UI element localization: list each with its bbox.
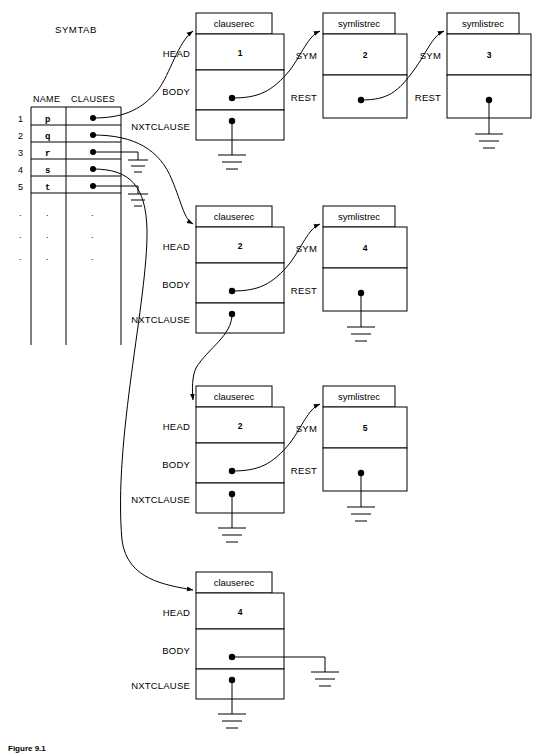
- clauserec-1-nxt-cell: [196, 110, 284, 140]
- link-symtab-row4-to-clauserec4: [93, 169, 193, 590]
- clauserec-4-head-label: HEAD: [163, 607, 190, 618]
- clauserec-4: clauserec HEAD BODY NXTCLAUSE 4: [131, 572, 339, 728]
- clauserec-3-nxt-cell: [196, 483, 284, 513]
- clauserec-4-body-cell: [196, 629, 284, 669]
- symlistrec-4-type-label: symlistrec: [338, 391, 380, 402]
- symtab-ellipsis-name: .: [46, 252, 49, 262]
- symtab-cell-name: r: [45, 149, 50, 159]
- symlistrec-4: symlistrec SYM REST 5: [291, 386, 407, 521]
- symtab-col-clauses: CLAUSES: [71, 94, 115, 104]
- clauserec-4-head-value: 4: [238, 607, 243, 617]
- clauserec-2-body-label: BODY: [162, 279, 190, 290]
- clauserec-1-body-cell: [196, 70, 284, 110]
- symtab-ellipsis-clauses: .: [91, 208, 94, 218]
- symtab-row-index: 1: [18, 114, 23, 124]
- symtab-row-index: 5: [18, 182, 23, 192]
- symtab-ellipsis-clauses: .: [91, 230, 94, 240]
- symlistrec-3-type-label: symlistrec: [338, 211, 380, 222]
- symtab-row-index: 2: [18, 131, 23, 141]
- clauserec-4-body-label: BODY: [162, 645, 190, 656]
- symtab-row-index: 3: [18, 148, 23, 158]
- clauserec-1-nxtclause-label: NXTCLAUSE: [131, 121, 190, 132]
- symlistrec-4-rest-cell: [323, 448, 407, 491]
- symlistrec-3: symlistrec SYM REST 4: [291, 206, 407, 341]
- clauserec-3-head-label: HEAD: [163, 421, 190, 432]
- symtab-ellipsis-index: .: [19, 252, 22, 262]
- clauserec-1-type-label: clauserec: [214, 18, 255, 29]
- clauserec-2-nxt-cell: [196, 303, 284, 333]
- symtab-cell-name: t: [45, 183, 50, 193]
- clauserec-2-nxtclause-label: NXTCLAUSE: [131, 314, 190, 325]
- symtab-ellipsis-name: .: [46, 208, 49, 218]
- symtab-ellipsis-clauses: .: [91, 252, 94, 262]
- clauserec-4-type-label: clauserec: [214, 577, 255, 588]
- symtab-cell-name: q: [45, 132, 50, 142]
- clauserec-4-nxt-cell: [196, 669, 284, 699]
- symtab-title: SYMTAB: [55, 24, 97, 35]
- link-symtab-row2-to-clauserec2: [93, 135, 193, 224]
- symlistrec-1-rest-cell: [323, 75, 407, 118]
- clauserec-2-body-cell: [196, 263, 284, 303]
- symtab-cell-name: p: [45, 115, 50, 125]
- symlistrec-1-type-label: symlistrec: [338, 18, 380, 29]
- clauserec-3-body-label: BODY: [162, 459, 190, 470]
- symlistrec-3-rest-label: REST: [291, 285, 317, 296]
- clauserec-3-nxtclause-label: NXTCLAUSE: [131, 494, 190, 505]
- linked-structure-diagram: SYMTAB NAME CLAUSES 1 2 3 4 5 p q r s t …: [0, 0, 550, 754]
- figure-canvas: SYMTAB NAME CLAUSES 1 2 3 4 5 p q r s t …: [0, 0, 550, 754]
- clauserec-3: clauserec HEAD BODY NXTCLAUSE 2: [131, 386, 284, 542]
- symtab-grid: [31, 107, 121, 345]
- clauserec-3-head-value: 2: [238, 421, 243, 431]
- clauserec-1-body-label: BODY: [162, 86, 190, 97]
- clauserec-3-body-cell: [196, 443, 284, 483]
- clauserec-1-head-value: 1: [238, 48, 243, 58]
- symlistrec-4-sym-value: 5: [363, 423, 368, 433]
- clauserec-2: clauserec HEAD BODY NXTCLAUSE 2: [131, 206, 284, 333]
- symlistrec-2-sym-value: 3: [487, 50, 492, 60]
- symtab-ellipsis-index: .: [19, 230, 22, 240]
- symtab-ellipsis-name: .: [46, 230, 49, 240]
- symlistrec-1-rest-label: REST: [291, 92, 317, 103]
- clauserec-3-type-label: clauserec: [214, 391, 255, 402]
- figure-caption: Figure 9.1: [8, 744, 46, 753]
- symlistrec-4-rest-label: REST: [291, 465, 317, 476]
- link-symtab-row1-to-clauserec1: [93, 31, 193, 118]
- symlistrec-3-sym-value: 4: [363, 243, 368, 253]
- symlistrec-3-rest-cell: [323, 268, 407, 311]
- symlistrec-1: symlistrec SYM REST 2: [291, 13, 407, 118]
- symtab-row-index: 4: [18, 165, 23, 175]
- symtab-ellipsis-index: .: [19, 208, 22, 218]
- clauserec-2-type-label: clauserec: [214, 211, 255, 222]
- clauserec-2-head-value: 2: [238, 241, 243, 251]
- symlistrec-2-rest-label: REST: [415, 92, 441, 103]
- symlistrec-2-type-label: symlistrec: [462, 18, 504, 29]
- symlistrec-2: symlistrec SYM REST 3: [415, 13, 531, 148]
- clauserec-4-nxtclause-label: NXTCLAUSE: [131, 680, 190, 691]
- symtab-col-name: NAME: [33, 94, 60, 104]
- clauserec-1: clauserec HEAD BODY NXTCLAUSE 1: [131, 13, 284, 169]
- symtab-cell-name: s: [45, 166, 50, 176]
- clauserec-2-head-label: HEAD: [163, 241, 190, 252]
- symlistrec-1-sym-value: 2: [363, 50, 368, 60]
